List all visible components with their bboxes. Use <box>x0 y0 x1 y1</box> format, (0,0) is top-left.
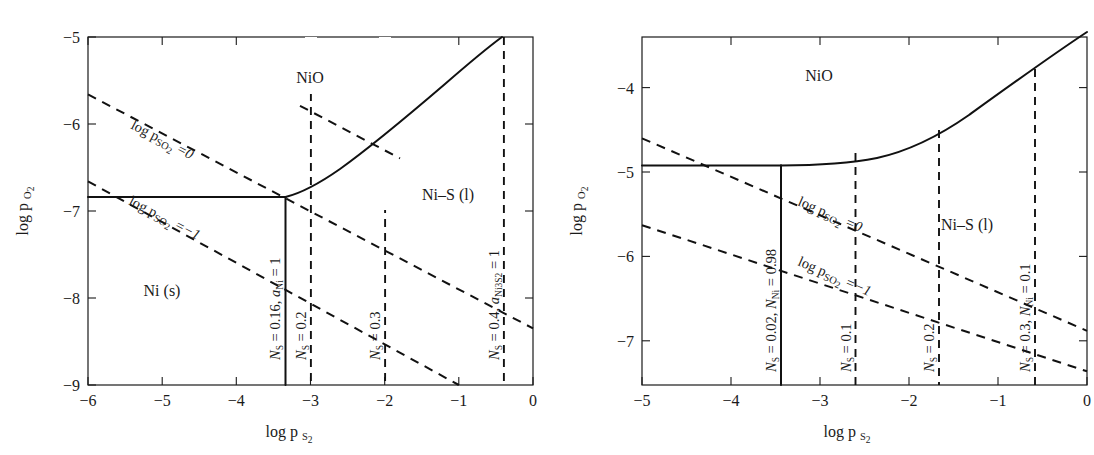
x-tick-labels-right: −5 −4 −3 −2 −1 0 <box>633 392 1091 409</box>
svg-text:NS = 0.2: NS = 0.2 <box>293 311 311 361</box>
annot-ns-03-left: NS = 0.3 <box>367 311 385 361</box>
svg-text:−6: −6 <box>617 248 634 265</box>
annot-ns-002-right: NS = 0.02, NNi = 0.98 <box>763 249 781 373</box>
y-axis-title-right: log p O2 <box>568 186 590 235</box>
svg-text:0: 0 <box>1083 392 1091 409</box>
svg-text:NS = 0.02, NNi = 0.98: NS = 0.02, NNi = 0.98 <box>763 249 781 373</box>
svg-text:log p S2: log p S2 <box>823 423 870 445</box>
annot-ns-02-right: NS = 0.2 <box>921 323 939 373</box>
left-panel-svg: −6 −5 −4 −3 −2 −1 0 −5 −6 −7 −8 −9 log p… <box>0 0 547 455</box>
svg-text:−2: −2 <box>900 392 917 409</box>
iso-log-pso2-0-right <box>642 138 1087 330</box>
x-axis-title-left: log p S2 <box>265 423 312 445</box>
svg-text:−5: −5 <box>63 29 80 46</box>
svg-text:NS = 0.4, aNi3S2 = 1: NS = 0.4, aNi3S2 = 1 <box>486 250 504 361</box>
svg-text:−2: −2 <box>376 392 393 409</box>
annot-log-pso2-0-left: log pSO2 =0 <box>127 116 197 166</box>
svg-text:−1: −1 <box>989 392 1006 409</box>
annot-log-pso2-m1-left: log pSO2 =−1 <box>125 192 203 246</box>
region-label-nio-right: NiO <box>805 67 833 84</box>
x-tick-labels-left: −6 −5 −4 −3 −2 −1 0 <box>79 392 537 409</box>
svg-text:log pSO2 =−1: log pSO2 =−1 <box>794 253 874 302</box>
svg-text:−5: −5 <box>617 164 634 181</box>
x-axis-title-right: log p S2 <box>823 423 870 445</box>
y-axis-title-left: log p O2 <box>14 186 36 235</box>
svg-text:log pSO2 =0: log pSO2 =0 <box>127 116 197 166</box>
svg-text:−4: −4 <box>617 80 634 97</box>
y-tick-labels-left: −5 −6 −7 −8 −9 <box>63 29 80 394</box>
mask-ns03-top-left <box>379 37 391 210</box>
svg-text:−6: −6 <box>63 116 80 133</box>
svg-text:−8: −8 <box>63 290 80 307</box>
svg-text:−1: −1 <box>450 392 467 409</box>
y-tick-labels-right: −4 −5 −6 −7 <box>617 80 634 350</box>
svg-text:−4: −4 <box>228 392 245 409</box>
phase-diagram-left: −6 −5 −4 −3 −2 −1 0 −5 −6 −7 −8 −9 log p… <box>0 0 547 455</box>
svg-text:−7: −7 <box>63 203 80 220</box>
svg-text:−9: −9 <box>63 377 80 394</box>
region-label-nis-right: Ni–S (l) <box>941 216 993 234</box>
phase-diagram-right: −5 −4 −3 −2 −1 0 −4 −5 −6 −7 log p S2 <box>547 0 1094 455</box>
region-label-ni-left: Ni (s) <box>144 282 181 300</box>
svg-text:−5: −5 <box>633 392 650 409</box>
region-label-nis-left: Ni–S (l) <box>422 186 474 204</box>
region-label-nio-left: NiO <box>296 69 324 86</box>
y-ticks-right <box>642 88 1087 341</box>
boundary-nio-nis-right <box>781 32 1087 165</box>
annot-log-pso2-m1-right: log pSO2 =−1 <box>794 253 874 302</box>
annot-ns-04-left: NS = 0.4, aNi3S2 = 1 <box>486 250 504 361</box>
svg-text:log pSO2 =−1: log pSO2 =−1 <box>125 192 203 246</box>
figure-container: −6 −5 −4 −3 −2 −1 0 −5 −6 −7 −8 −9 log p… <box>0 0 1094 455</box>
svg-text:−7: −7 <box>617 333 634 350</box>
boundary-nio-nis-left <box>286 37 503 197</box>
svg-text:−5: −5 <box>154 392 171 409</box>
right-panel-svg: −5 −4 −3 −2 −1 0 −4 −5 −6 −7 log p S2 <box>547 0 1094 455</box>
annot-ns-02-left: NS = 0.2 <box>293 311 311 361</box>
svg-text:NS = 0.16, aNi = 1: NS = 0.16, aNi = 1 <box>267 258 285 361</box>
svg-text:−6: −6 <box>79 392 96 409</box>
svg-text:NS = 0.2: NS = 0.2 <box>921 323 939 373</box>
svg-text:0: 0 <box>529 392 537 409</box>
svg-text:log p S2: log p S2 <box>265 423 312 445</box>
svg-text:log p O2: log p O2 <box>568 186 590 235</box>
svg-text:NS = 0.3: NS = 0.3 <box>367 311 385 361</box>
svg-text:NS = 0.1: NS = 0.1 <box>838 323 856 373</box>
svg-text:−4: −4 <box>722 392 739 409</box>
svg-text:log p O2: log p O2 <box>14 186 36 235</box>
annot-ns-01-right: NS = 0.1 <box>838 323 856 373</box>
svg-text:−3: −3 <box>302 392 319 409</box>
annot-ns-03-right: NS = 0.3, NNi = 0.1 <box>1017 263 1035 373</box>
svg-text:NS = 0.3, NNi = 0.1: NS = 0.3, NNi = 0.1 <box>1017 263 1035 373</box>
svg-text:−3: −3 <box>811 392 828 409</box>
annot-ns-016-left: NS = 0.16, aNi = 1 <box>267 258 285 361</box>
